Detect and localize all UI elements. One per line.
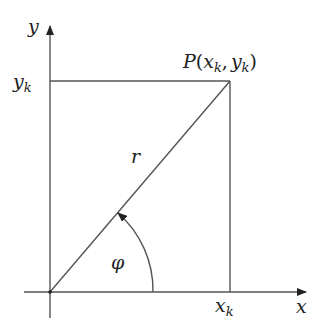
radius-label: r [131, 145, 142, 167]
point-label: P(xk,yk) [182, 50, 257, 75]
diagram-canvas: y x yk xk P(xk,yk) r φ [0, 0, 328, 330]
y-axis-label: y [27, 15, 39, 37]
x-axis-label: x [296, 295, 307, 317]
radius-vector [50, 81, 230, 292]
x-tick-label: xk [215, 294, 234, 319]
y-tick-label: yk [12, 70, 32, 95]
polar-coordinates-diagram: y x yk xk P(xk,yk) r φ [0, 0, 328, 330]
angle-label: φ [111, 251, 125, 273]
origin-point [48, 290, 52, 294]
